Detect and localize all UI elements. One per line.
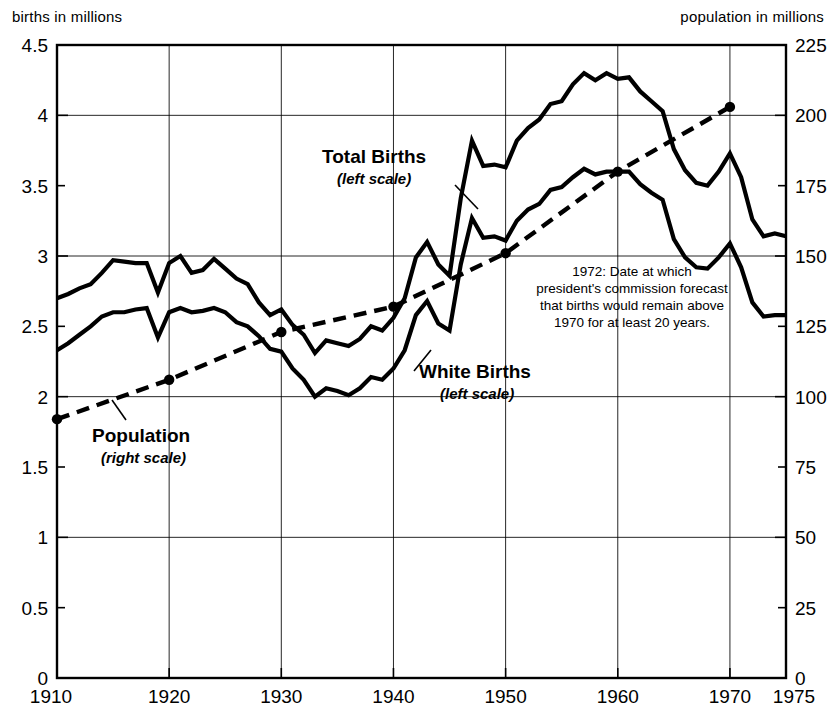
white-births-label: White Births bbox=[419, 361, 531, 382]
x-tick-label: 1910 bbox=[30, 686, 72, 707]
y-tick-label: 1 bbox=[37, 527, 48, 548]
x-axis-tick-labels: 19101920193019401950196019701975 bbox=[30, 686, 815, 707]
total-births-label: Total Births bbox=[322, 146, 426, 167]
y-tick-label: 1.5 bbox=[22, 457, 48, 478]
x-tick-label: 1950 bbox=[484, 686, 526, 707]
x-tick-label: 1920 bbox=[148, 686, 190, 707]
x-tick-label: 1970 bbox=[709, 686, 751, 707]
forecast-note-line-4: 1970 for at least 20 years. bbox=[554, 315, 710, 330]
population-data-point bbox=[613, 166, 623, 176]
population-sublabel: (right scale) bbox=[101, 449, 186, 466]
forecast-note: 1972: Date at which president's commissi… bbox=[536, 264, 728, 330]
population-data-point bbox=[725, 102, 735, 112]
y2-tick-label: 75 bbox=[795, 457, 816, 478]
population-data-point bbox=[52, 414, 62, 424]
chart-plot-area: 00.511.522.533.544.5 0255075100125150175… bbox=[0, 0, 838, 725]
y-tick-label: 4.5 bbox=[22, 35, 48, 56]
population-leader-line bbox=[112, 400, 126, 420]
y2-tick-label: 125 bbox=[795, 316, 827, 337]
x-tick-label: 1960 bbox=[597, 686, 639, 707]
x-tick-label: 1930 bbox=[260, 686, 302, 707]
y2-tick-label: 100 bbox=[795, 387, 827, 408]
total-births-sublabel: (left scale) bbox=[337, 170, 411, 187]
x-tick-label: 1975 bbox=[773, 686, 815, 707]
population-data-point bbox=[388, 301, 398, 311]
y2-tick-label: 200 bbox=[795, 105, 827, 126]
population-data-point bbox=[500, 248, 510, 258]
population-label: Population bbox=[92, 425, 190, 446]
y-tick-label: 3.5 bbox=[22, 176, 48, 197]
y-tick-label: 2.5 bbox=[22, 316, 48, 337]
y-tick-label: 4 bbox=[37, 105, 48, 126]
y2-tick-label: 175 bbox=[795, 176, 827, 197]
white-births-sublabel: (left scale) bbox=[440, 385, 514, 402]
y-tick-label: 3 bbox=[37, 246, 48, 267]
population-data-point bbox=[164, 375, 174, 385]
total-births-annotation: Total Births (left scale) bbox=[322, 146, 478, 209]
y2-tick-label: 25 bbox=[795, 598, 816, 619]
population-data-point bbox=[276, 327, 286, 337]
chart-figure: births in millions population in million… bbox=[0, 0, 838, 725]
y-tick-label: 0.5 bbox=[22, 598, 48, 619]
white-births-annotation: White Births (left scale) bbox=[414, 350, 531, 402]
y2-tick-label: 150 bbox=[795, 246, 827, 267]
x-tick-label: 1940 bbox=[372, 686, 414, 707]
left-axis-tick-labels: 00.511.522.533.544.5 bbox=[22, 35, 49, 689]
population-annotation: Population (right scale) bbox=[92, 400, 190, 466]
forecast-note-line-1: 1972: Date at which bbox=[572, 264, 691, 279]
y-tick-label: 2 bbox=[37, 387, 48, 408]
forecast-note-line-3: that births would remain above bbox=[540, 298, 724, 313]
forecast-note-line-2: president's commission forecast bbox=[536, 281, 728, 296]
y2-tick-label: 50 bbox=[795, 527, 816, 548]
right-axis-tick-labels: 0255075100125150175200225 bbox=[795, 35, 827, 689]
y2-tick-label: 225 bbox=[795, 35, 827, 56]
